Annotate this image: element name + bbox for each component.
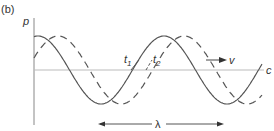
panel-label: (b)	[1, 3, 14, 15]
velocity-label: v	[229, 54, 236, 66]
y-axis-label: p	[22, 15, 29, 27]
velocity-arrowhead-icon	[219, 57, 227, 63]
wavelength-label: λ	[155, 118, 161, 130]
wave-diagram: (b) p c t1 t2 v λ	[0, 0, 274, 131]
wavelength-arrowhead-left-icon	[98, 122, 105, 127]
wavelength-arrowhead-right-icon	[217, 122, 224, 127]
t1-pointer	[131, 60, 139, 70]
t1-subscript: 1	[127, 59, 131, 68]
t2-pointer	[146, 60, 152, 70]
t1-label: t1	[124, 53, 132, 68]
baseline-label: c	[266, 64, 272, 76]
t2-label: t2	[153, 53, 161, 68]
t2-subscript: 2	[155, 59, 161, 68]
